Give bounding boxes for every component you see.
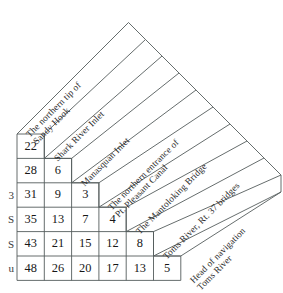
matrix-cell: 17	[99, 256, 126, 280]
margin-glyph: u	[0, 256, 17, 280]
matrix-cell: 35	[17, 207, 44, 231]
margin-glyph: 3	[0, 183, 17, 207]
margin-glyph	[0, 134, 17, 158]
left-margin-glyphs: 3 S S u	[0, 134, 17, 280]
matrix-cell: 6	[44, 158, 71, 182]
matrix-cell: 13	[44, 207, 71, 231]
matrix-cell: 5	[153, 256, 180, 280]
matrix-cell: 43	[17, 232, 44, 256]
matrix-cell: 13	[126, 256, 153, 280]
matrix-row: 3193	[17, 183, 181, 207]
matrix-cell: 7	[72, 207, 99, 231]
matrix-cell: 15	[72, 232, 99, 256]
matrix-row: 432115128	[17, 232, 181, 256]
matrix-row: 286	[17, 158, 181, 182]
distance-matrix-body: 22286319335137443211512848262017135	[17, 134, 181, 280]
matrix-cell: 9	[44, 183, 71, 207]
matrix-cell: 4	[99, 207, 126, 231]
matrix-row: 48262017135	[17, 256, 181, 280]
margin-glyph: S	[0, 207, 17, 231]
matrix-cell: 21	[44, 232, 71, 256]
matrix-cell: 31	[17, 183, 44, 207]
matrix-cell: 28	[17, 158, 44, 182]
matrix-row: 22	[17, 134, 181, 158]
matrix-cell: 22	[17, 134, 44, 158]
margin-glyph	[0, 158, 17, 182]
matrix-cell: 3	[72, 183, 99, 207]
margin-glyph: S	[0, 232, 17, 256]
matrix-row: 351374	[17, 207, 181, 231]
matrix-cell: 48	[17, 256, 44, 280]
matrix-cell: 12	[99, 232, 126, 256]
matrix-cell: 26	[44, 256, 71, 280]
matrix-cell: 8	[126, 232, 153, 256]
matrix-cell: 20	[72, 256, 99, 280]
